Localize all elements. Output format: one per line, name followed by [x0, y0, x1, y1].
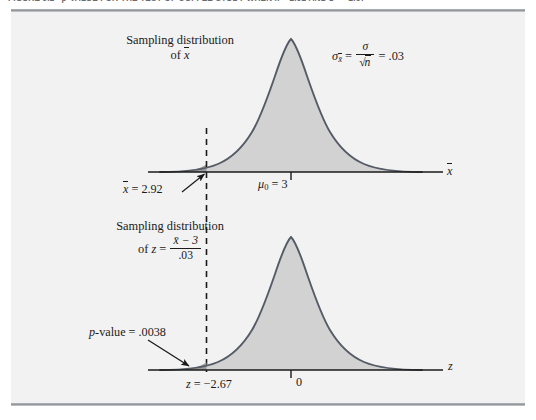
upper-plot-title: Sampling distribution of x [96, 33, 264, 62]
pvalue-arrow [148, 340, 189, 366]
sigma-value: = .03 [378, 49, 404, 63]
observed-xbar-symbol: x [123, 182, 128, 196]
upper-observed-arrow [182, 174, 205, 192]
pvalue-text: -value = .0038 [95, 325, 166, 339]
sigma-subscript: x̄ [338, 54, 342, 64]
z-equals: = [159, 241, 166, 255]
plot-graphics [0, 0, 536, 420]
lower-axis-label: z [448, 359, 453, 373]
sigma-numerator: σ [356, 40, 374, 55]
observed-z-symbol: z [186, 377, 191, 391]
z-formula-fraction: x̄ − 3 .03 [170, 234, 201, 264]
sigma-equals: = [345, 49, 352, 63]
lower-plot-title-line1: Sampling distribution [116, 219, 224, 233]
lower-plot-title-line2-prefix: of [138, 241, 151, 255]
lower-plot-title: Sampling distribution of z = x̄ − 3 .03 [86, 219, 254, 264]
lower-center-tick-label: 0 [296, 375, 302, 389]
z-symbol: z [151, 241, 156, 255]
mu-value: = 3 [271, 177, 287, 191]
upper-plot-title-line1: Sampling distribution [126, 33, 234, 47]
upper-observed-label: x = 2.92 [123, 182, 163, 196]
observed-z-value: = −2.67 [194, 377, 232, 391]
upper-mean-label: μ0 = 3 [258, 177, 287, 193]
z-formula-numerator: x̄ − 3 [170, 234, 201, 249]
sigma-fraction: σ √n [356, 40, 374, 71]
figure-container: FIGURE 9.2p-VALUE FOR THE TEST OF COFFEE… [0, 0, 536, 420]
sigma-denominator-n: n [365, 55, 372, 70]
xbar-symbol: x [184, 48, 190, 63]
sigma-denominator: √n [356, 55, 374, 70]
observed-xbar-value: = 2.92 [131, 182, 162, 196]
pvalue-label: p-value = .0038 [89, 325, 166, 339]
lower-observed-label: z = −2.67 [186, 377, 232, 391]
mu-subscript: 0 [264, 182, 268, 192]
standard-error-formula: σx̄ = σ √n = .03 [332, 40, 404, 71]
upper-plot-title-line2-prefix: of [171, 48, 184, 62]
upper-axis-label: x [447, 164, 452, 178]
z-formula-denominator: .03 [170, 249, 201, 263]
